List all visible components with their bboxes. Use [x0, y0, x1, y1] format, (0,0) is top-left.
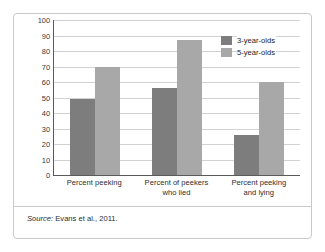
y-tick-label: 10	[42, 155, 50, 164]
source-text: Evans et al., 2011.	[53, 214, 117, 223]
source-divider	[14, 206, 311, 207]
y-tick-label: 40	[42, 109, 50, 118]
bar-group	[54, 20, 136, 175]
legend-item-5-year-olds: 5-year-olds	[221, 48, 276, 57]
y-tick-label: 80	[42, 47, 50, 56]
legend-label-5-year-olds: 5-year-olds	[237, 48, 276, 57]
bar-3-year-olds	[234, 135, 259, 175]
y-tick-label: 70	[42, 62, 50, 71]
bar-5-year-olds	[95, 67, 120, 176]
y-tick-label: 100	[38, 16, 50, 25]
source-caption: Source: Evans et al., 2011.	[27, 214, 118, 223]
bar-3-year-olds	[70, 99, 95, 175]
legend-swatch-icon-3-year-olds	[221, 36, 232, 45]
x-axis-label: Percent peeking	[53, 178, 135, 197]
y-tick-label: 30	[42, 124, 50, 133]
y-tick-label: 0	[46, 171, 50, 180]
y-tick-label: 90	[42, 31, 50, 40]
source-label: Source:	[27, 214, 53, 223]
y-tick-label: 50	[42, 93, 50, 102]
chart-area: 1009080706050403020100 Percent peekingPe…	[14, 14, 313, 206]
bar-5-year-olds	[259, 82, 284, 175]
x-axis-label: Percent of peekerswho lied	[135, 178, 217, 197]
x-axis-labels: Percent peekingPercent of peekerswho lie…	[53, 178, 300, 197]
bar-group	[136, 20, 218, 175]
legend-label-3-year-olds: 3-year-olds	[237, 36, 276, 45]
legend-swatch-icon-5-year-olds	[221, 48, 232, 57]
y-axis: 1009080706050403020100	[28, 20, 50, 175]
x-axis-label: Percent peekingand lying	[218, 178, 300, 197]
y-tick-label: 60	[42, 78, 50, 87]
bar-5-year-olds	[177, 40, 202, 175]
legend-item-3-year-olds: 3-year-olds	[221, 36, 276, 45]
legend: 3-year-olds 5-year-olds	[221, 36, 276, 57]
y-tick-label: 20	[42, 140, 50, 149]
bar-3-year-olds	[152, 88, 177, 175]
figure-frame: 1009080706050403020100 Percent peekingPe…	[13, 13, 312, 239]
